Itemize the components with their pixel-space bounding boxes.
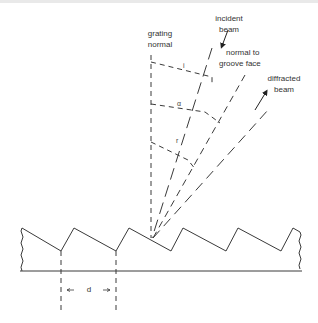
diffracted-beam-line bbox=[153, 110, 268, 238]
incident-beam-line bbox=[152, 48, 212, 238]
angle-diffraction-label: r bbox=[176, 137, 178, 144]
grating-left-edge bbox=[21, 228, 23, 271]
grating-right-edge bbox=[299, 232, 301, 269]
grating-profile bbox=[20, 228, 302, 271]
grating-normal-label-line2: normal bbox=[143, 39, 177, 50]
grating-normal-label-line1: grating bbox=[143, 28, 177, 39]
diffracted-beam-label-line2: beam bbox=[262, 84, 306, 95]
angle-incidence-label: i bbox=[183, 62, 185, 69]
groove-normal-line bbox=[153, 75, 245, 238]
incident-beam-label: incident beam bbox=[212, 13, 246, 35]
groove-spacing-label: d bbox=[84, 284, 94, 295]
angle-blaze-label: α bbox=[177, 100, 181, 107]
grating-normal-label: grating normal bbox=[143, 28, 177, 50]
diffracted-beam-label-line1: diffracted bbox=[262, 73, 306, 84]
groove-normal-label-line1: normal to bbox=[225, 47, 261, 58]
groove-normal-label: normal to groove face bbox=[225, 47, 261, 69]
incident-beam-label-line2: beam bbox=[212, 24, 246, 35]
groove-normal-label-line2: groove face bbox=[219, 58, 261, 69]
incident-beam-label-line1: incident bbox=[212, 13, 246, 24]
angle-markers bbox=[151, 62, 220, 170]
diffracted-beam-label: diffracted beam bbox=[262, 73, 306, 95]
spacing-markers bbox=[61, 251, 116, 310]
